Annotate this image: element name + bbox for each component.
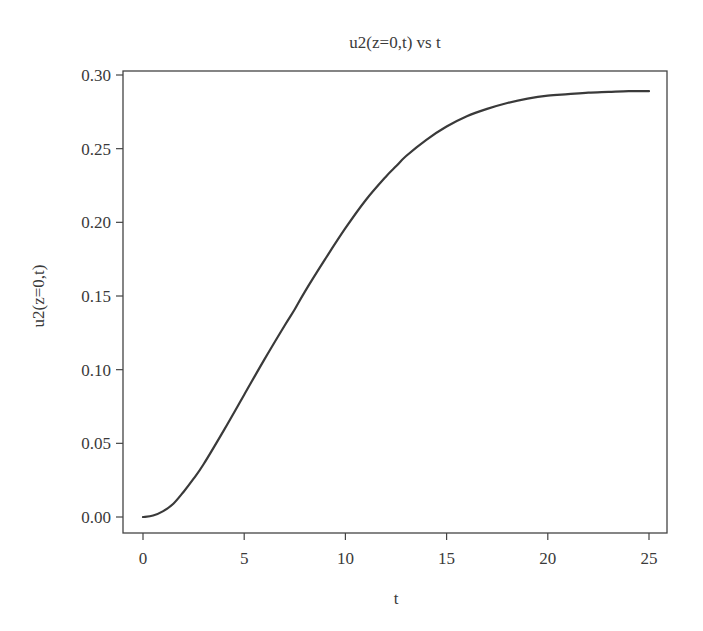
chart-title: u2(z=0,t) vs t: [349, 33, 441, 52]
x-axis-label: t: [394, 589, 399, 608]
x-tick-label: 15: [438, 549, 455, 568]
y-tick-label: 0.25: [81, 140, 111, 159]
y-axis: 0.000.050.100.150.200.250.30: [81, 66, 123, 527]
x-tick-label: 5: [240, 549, 249, 568]
y-tick-label: 0.00: [81, 508, 111, 527]
y-axis-label: u2(z=0,t): [29, 265, 48, 328]
line-chart: u2(z=0,t) vs t 0.000.050.100.150.200.250…: [0, 0, 703, 631]
y-tick-label: 0.30: [81, 66, 111, 85]
x-tick-label: 25: [641, 549, 658, 568]
y-tick-label: 0.15: [81, 287, 111, 306]
y-tick-label: 0.20: [81, 213, 111, 232]
y-tick-label: 0.10: [81, 361, 111, 380]
x-axis: 0510152025: [139, 533, 658, 568]
x-tick-label: 20: [539, 549, 556, 568]
x-tick-label: 10: [337, 549, 354, 568]
y-tick-label: 0.05: [81, 434, 111, 453]
data-line: [143, 91, 649, 517]
x-tick-label: 0: [139, 549, 148, 568]
